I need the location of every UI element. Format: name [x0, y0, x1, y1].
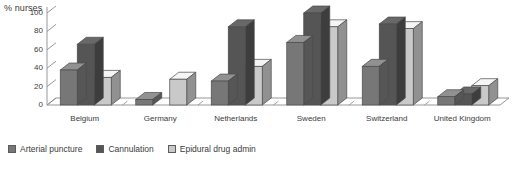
x-axis-category-label: United Kingdom [415, 114, 511, 123]
chart-legend: Arterial punctureCannulationEpidural dru… [8, 144, 256, 154]
y-axis-tick [47, 24, 56, 31]
bar-germany-series3 [170, 72, 196, 105]
legend-swatch-icon [168, 145, 176, 153]
bar-switzerland-series1 [362, 59, 388, 105]
y-axis-tick-label: 100 [19, 8, 43, 17]
bar-netherlands-series1 [211, 74, 237, 105]
y-axis-tick [47, 43, 56, 50]
legend-item-3[interactable]: Epidural drug admin [168, 144, 256, 154]
y-axis-tick-label: 60 [19, 45, 43, 54]
y-axis-tick-label: 20 [19, 82, 43, 91]
legend-swatch-icon [96, 145, 104, 153]
y-axis-tick [47, 6, 56, 13]
y-axis-tick [47, 80, 56, 87]
legend-item-2[interactable]: Cannulation [96, 144, 153, 154]
plot-area [0, 0, 531, 132]
bar-belgium-series1 [60, 63, 86, 105]
chart-svg [0, 0, 531, 132]
chart-container: % nurses 020406080100 BelgiumGermanyNeth… [0, 0, 531, 171]
bar-sweden-series1 [287, 35, 313, 105]
y-axis-tick-label: 0 [19, 100, 43, 109]
legend-label: Cannulation [108, 144, 153, 154]
y-axis-tick-label: 40 [19, 63, 43, 72]
legend-swatch-icon [8, 145, 16, 153]
y-axis-tick-label: 80 [19, 26, 43, 35]
legend-label: Arterial puncture [20, 144, 82, 154]
legend-item-1[interactable]: Arterial puncture [8, 144, 82, 154]
y-axis-tick [47, 61, 56, 68]
legend-label: Epidural drug admin [180, 144, 256, 154]
